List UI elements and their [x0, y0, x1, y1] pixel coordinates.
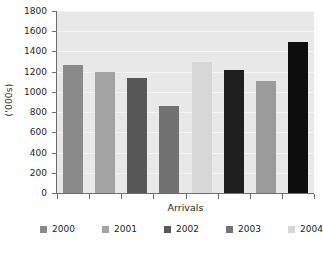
- y-axis-tick-mark: [52, 11, 57, 12]
- y-axis-tick-mark: [52, 173, 57, 174]
- legend-label: 2002: [176, 225, 199, 234]
- bar: [127, 78, 147, 193]
- x-axis-tick-mark: [282, 194, 283, 199]
- legend-item-2003[interactable]: 2003: [226, 225, 288, 234]
- y-axis-tick-label: 0: [41, 189, 47, 198]
- legend-swatch-icon: [226, 226, 233, 233]
- bars-group: [57, 11, 314, 193]
- bar: [95, 72, 115, 193]
- bar: [63, 65, 83, 193]
- y-axis-tick-label: 1400: [24, 47, 47, 56]
- x-axis-tick-mark: [57, 194, 58, 199]
- bar-chart-figure: ('000s) 18001600140012001000800600400200…: [0, 0, 323, 264]
- y-axis-tick-label: 1800: [24, 7, 47, 16]
- y-axis-tick-mark: [52, 31, 57, 32]
- y-axis-tick-label: 1000: [24, 87, 47, 96]
- bar: [256, 81, 276, 193]
- x-axis-tick-mark: [314, 194, 315, 199]
- x-axis-tick-mark: [153, 194, 154, 199]
- legend-item-2004[interactable]: 2004: [288, 225, 323, 234]
- bar: [224, 70, 244, 193]
- legend-swatch-icon: [164, 226, 171, 233]
- y-axis-tick-label: 400: [30, 148, 47, 157]
- y-axis-title: ('000s): [0, 0, 18, 200]
- legend-label: 2003: [238, 225, 261, 234]
- y-axis-tick-label: 600: [30, 128, 47, 137]
- y-axis-tick-labels: 180016001400120010008006004002000: [18, 11, 51, 193]
- legend-swatch-icon: [102, 226, 109, 233]
- y-axis-tick-mark: [52, 51, 57, 52]
- x-axis-tick-mark: [186, 194, 187, 199]
- y-axis-tick-label: 200: [30, 168, 47, 177]
- y-axis-tick-label: 1600: [24, 27, 47, 36]
- y-axis-tick-mark: [52, 153, 57, 154]
- y-axis-line: [56, 11, 57, 194]
- x-axis-title: Arrivals: [57, 202, 314, 213]
- x-axis-tick-mark: [121, 194, 122, 199]
- x-axis-tick-mark: [89, 194, 90, 199]
- y-axis-tick-label: 800: [30, 108, 47, 117]
- legend-label: 2004: [300, 225, 323, 234]
- y-axis-title-text: ('000s): [4, 84, 14, 117]
- y-axis-tick-mark: [52, 92, 57, 93]
- legend-item-2002[interactable]: 2002: [164, 225, 226, 234]
- bar: [288, 42, 308, 193]
- x-axis-tick-mark: [218, 194, 219, 199]
- bar: [192, 62, 212, 193]
- x-axis-tick-mark: [250, 194, 251, 199]
- chart-legend: 20002001200220032004200520062007: [40, 222, 280, 237]
- y-axis-tick-mark: [52, 132, 57, 133]
- legend-swatch-icon: [40, 226, 47, 233]
- legend-label: 2000: [52, 225, 75, 234]
- plot-area: [57, 11, 314, 193]
- bar: [159, 106, 179, 193]
- y-axis-tick-mark: [52, 72, 57, 73]
- y-axis-tick-label: 1200: [24, 67, 47, 76]
- legend-item-2000[interactable]: 2000: [40, 225, 102, 234]
- y-axis-tick-mark: [52, 112, 57, 113]
- legend-label: 2001: [114, 225, 137, 234]
- legend-swatch-icon: [288, 226, 295, 233]
- legend-item-2001[interactable]: 2001: [102, 225, 164, 234]
